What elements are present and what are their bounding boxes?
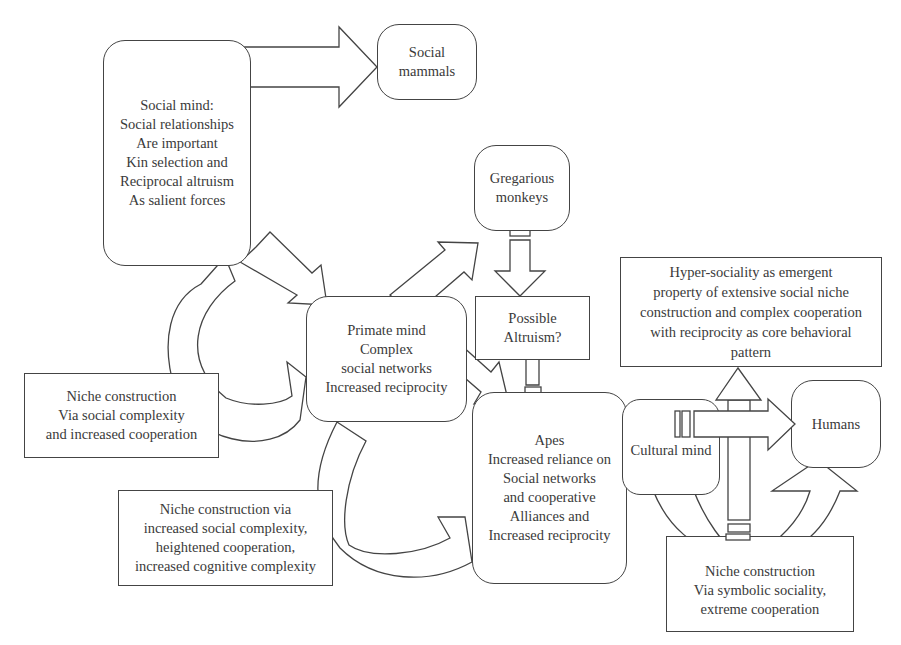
node-niche-social-complexity: Niche construction Via social complexity… — [24, 373, 219, 458]
node-possible-altruism-label: Possible Altruism? — [504, 309, 562, 347]
node-social-mammals: Social mammals — [377, 24, 477, 100]
node-humans: Humans — [791, 380, 881, 468]
node-cultural-mind: Cultural mind — [622, 399, 720, 495]
node-primate-mind-label: Primate mind Complex social networks Inc… — [326, 321, 448, 397]
node-primate-mind: Primate mind Complex social networks Inc… — [306, 296, 467, 422]
node-gregarious-monkeys: Gregarious monkeys — [474, 145, 570, 231]
node-niche-cognitive: Niche construction via increased social … — [118, 490, 333, 586]
node-apes-label: Apes Increased reliance on Social networ… — [488, 431, 611, 545]
node-humans-label: Humans — [812, 415, 860, 434]
node-cultural-mind-label: Cultural mind — [631, 441, 712, 460]
node-niche-symbolic-label: Niche construction Via symbolic socialit… — [694, 562, 826, 619]
node-social-mind: Social mind: Social relationships Are im… — [103, 40, 251, 266]
node-social-mind-label: Social mind: Social relationships Are im… — [120, 96, 234, 210]
node-hyper-sociality: Hyper-sociality as emergent property of … — [620, 257, 882, 367]
node-possible-altruism: Possible Altruism? — [475, 296, 590, 360]
node-niche-symbolic: Niche construction Via symbolic socialit… — [666, 536, 854, 632]
arrow-gregarious-monkeys-to-possible-altruism — [495, 229, 545, 296]
node-apes: Apes Increased reliance on Social networ… — [472, 392, 627, 584]
node-niche-cognitive-label: Niche construction via increased social … — [135, 500, 316, 576]
node-social-mammals-label: Social mammals — [399, 43, 455, 81]
curved-arrow-niche-cognitive — [318, 422, 472, 577]
node-niche-social-complexity-label: Niche construction Via social complexity… — [46, 387, 197, 444]
node-gregarious-monkeys-label: Gregarious monkeys — [490, 169, 554, 207]
arrow-social-mind-to-primate-mind — [240, 232, 327, 305]
node-hyper-sociality-label: Hyper-sociality as emergent property of … — [640, 262, 862, 362]
